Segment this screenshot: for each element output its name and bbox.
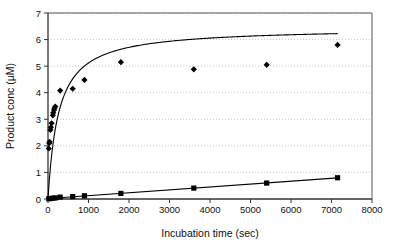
x-tick-label-6000: 6000 [280,204,301,215]
y-tick-label-5: 5 [36,61,41,72]
data-point-slow-series-5 [70,194,75,199]
y-tick-label-7: 7 [36,8,41,19]
x-tick-label-1000: 1000 [78,204,99,215]
data-point-slow-series-7 [118,191,123,196]
x-tick-label-5000: 5000 [240,204,261,215]
y-tick-label-4: 4 [36,87,41,98]
x-axis-title: Incubation time (sec) [161,227,258,239]
chart-figure: 010002000300040005000600070008000 012345… [0,0,396,243]
x-tick-label-8000: 8000 [361,204,382,215]
y-tick-label-6: 6 [36,34,41,45]
x-tick-label-2000: 2000 [118,204,139,215]
x-tick-label-4000: 4000 [199,204,220,215]
chart-canvas: 010002000300040005000600070008000 012345… [0,0,396,243]
data-point-slow-series-9 [264,180,269,185]
x-tick-label-0: 0 [45,204,50,215]
y-axis-title: Product conc (µM) [4,63,16,149]
data-point-slow-series-3 [53,195,58,200]
data-point-slow-series-10 [335,175,340,180]
data-point-slow-series-8 [191,186,196,191]
data-point-slow-series-6 [82,193,87,198]
data-point-slow-series-4 [58,195,63,200]
x-axis-tick-labels: 010002000300040005000600070008000 [45,204,382,215]
x-tick-label-7000: 7000 [321,204,342,215]
x-tick-label-3000: 3000 [159,204,180,215]
y-tick-label-2: 2 [36,140,41,151]
y-tick-label-0: 0 [36,194,41,205]
y-tick-label-1: 1 [36,167,41,178]
y-tick-label-3: 3 [36,114,41,125]
